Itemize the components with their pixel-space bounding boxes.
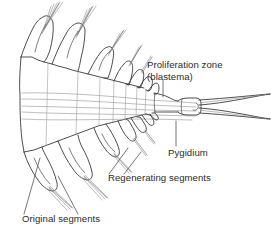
- parapodium-inner-fold: [102, 134, 115, 152]
- septum-regen-3: [136, 87, 137, 117]
- label-regenerating-segments: Regenerating segments: [108, 172, 211, 183]
- septum-regen-1: [113, 81, 114, 122]
- chaetae-bundle-regen-2-ventral: [144, 130, 155, 144]
- worm-illustration: Proliferation zone (blastema) Pygidium R…: [0, 0, 271, 238]
- parapodium-regenerating-3-ventral: [142, 114, 154, 125]
- leader-original-2: [58, 176, 78, 214]
- chaetae-bundle-original-2-ventral: [83, 175, 108, 200]
- leader-regenerating-1: [109, 148, 128, 174]
- label-proliferation-zone-line1: Proliferation zone: [147, 59, 223, 70]
- proliferation-zone-blastema: [154, 93, 178, 112]
- parapodium-regenerating-1-ventral: [118, 119, 147, 156]
- parapodium-original-3-ventral: [94, 124, 132, 173]
- blastema-boundary-left: [154, 93, 155, 112]
- parapodium-inner-fold: [69, 148, 85, 173]
- septum-original-1: [46, 63, 48, 146]
- leader-regenerating-2: [124, 152, 141, 174]
- parapodium-outline: [128, 70, 144, 89]
- septum-regen-2: [125, 84, 126, 119]
- leader-original-1: [24, 158, 40, 214]
- regeneration-diagram: Proliferation zone (blastema) Pygidium R…: [0, 0, 271, 238]
- parapodium-original-1-ventral: [24, 147, 73, 210]
- chaetae-bundle-original-2-dorsal: [76, 6, 96, 38]
- septum-regen-4: [145, 89, 146, 114]
- parapodium-inner-fold: [67, 31, 78, 58]
- label-original-segments: Original segments: [22, 213, 100, 224]
- cerci-tail-filaments: [199, 94, 270, 119]
- parapodium-outline: [142, 114, 154, 125]
- parapodium-original-3-dorsal: [88, 30, 126, 78]
- parapodium-original-2-dorsal: [52, 6, 96, 71]
- parapodium-outline: [58, 135, 92, 180]
- blastema-dorsal-edge: [154, 93, 178, 101]
- chaetae-bundle-regen-1: [129, 45, 142, 66]
- chaetae-bundle-original-3-dorsal: [108, 30, 126, 56]
- cercus-lower: [199, 113, 270, 119]
- cercus-upper: [199, 94, 270, 100]
- parapodium-regenerating-1-dorsal: [114, 45, 142, 85]
- parapodium-inner-fold: [99, 51, 110, 70]
- parapodium-regenerating-4-dorsal: [148, 83, 159, 94]
- chaetae-bundle-original-1-dorsal: [42, 2, 63, 34]
- cercus-upper-midline: [202, 95, 266, 103]
- label-pygidium: Pygidium: [168, 147, 208, 158]
- anterior-body-edge: [20, 57, 24, 152]
- cercus-lower-midline: [202, 111, 266, 119]
- septum-original-2: [76, 71, 78, 134]
- label-proliferation-zone-line2: (blastema): [147, 71, 193, 82]
- annotation-labels: Proliferation zone (blastema) Pygidium R…: [22, 59, 223, 224]
- internal-gut-lines: [22, 93, 196, 120]
- body-trunk: [20, 57, 146, 152]
- parapodium-outline: [148, 83, 159, 94]
- parapodium-outline: [24, 147, 57, 191]
- parapodium-outline: [94, 124, 119, 157]
